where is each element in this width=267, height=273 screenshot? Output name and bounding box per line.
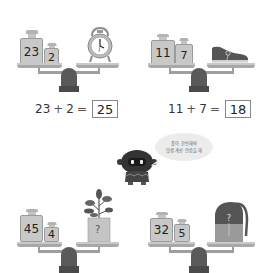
fulcrum [191, 247, 207, 268]
backpack-icon: ? [211, 200, 251, 244]
equation-top-right: 11 + 7 = 18 [168, 100, 251, 118]
unknown-weight-label: ? [225, 210, 226, 211]
svg-text:?: ? [227, 213, 232, 223]
fulcrum [61, 247, 77, 268]
weight-large: 32 [150, 212, 173, 242]
answer-box[interactable]: 18 [225, 100, 251, 118]
fulcrum [191, 68, 207, 88]
left-pan [148, 242, 195, 247]
weight-small: 7 [175, 38, 193, 66]
weight-small: 4 [44, 222, 59, 242]
weight-large: 11 [151, 34, 175, 66]
fulcrum [61, 68, 77, 88]
equals-sign: = [210, 102, 220, 116]
weight-large: 45 [20, 209, 43, 242]
right-pan [207, 242, 255, 247]
unknown-weight-label: ? [95, 224, 100, 235]
operand-b: 7 [199, 102, 207, 116]
right-pan [207, 63, 255, 68]
operand-b: 2 [66, 102, 74, 116]
plus-sign: + [186, 102, 196, 116]
speech-line-2: 덧셈 계산 연습을 해 [166, 147, 202, 154]
weight-small: 5 [174, 219, 190, 242]
speech-bubble: 좋아 한번해봐 덧셈 계산 연습을 해 [155, 133, 213, 161]
operand-a: 11 [168, 102, 183, 116]
left-pan [148, 63, 195, 68]
alarm-clock-icon [86, 26, 114, 64]
plus-sign: + [53, 102, 63, 116]
equation-top-left: 23 + 2 = 25 [35, 100, 118, 118]
answer-box[interactable]: 25 [92, 100, 118, 118]
weight-large: 23 [20, 30, 43, 66]
speech-line-1: 좋아 한번해봐 [171, 140, 196, 147]
sneaker-icon [210, 44, 250, 64]
operand-a: 23 [35, 102, 50, 116]
equals-sign: = [77, 102, 87, 116]
